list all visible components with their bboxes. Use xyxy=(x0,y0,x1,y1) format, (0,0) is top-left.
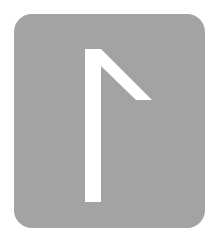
laguz-rune-icon xyxy=(0,0,221,237)
rune-glyph-shape xyxy=(84,49,152,202)
